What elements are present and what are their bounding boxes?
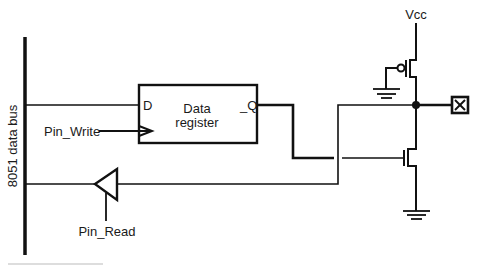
- data-register: D Data register _Q: [139, 85, 257, 143]
- pin-write-label: Pin_Write: [44, 124, 100, 139]
- wire-q-to-nmos-gate: [257, 105, 334, 158]
- nmos-transistor: [404, 105, 416, 211]
- circuit-diagram: 8051 data bus D Data register _Q Pin_Wri…: [0, 0, 477, 266]
- data-bus-label: 8051 data bus: [5, 104, 20, 187]
- d-input-label: D: [143, 98, 152, 113]
- output-pin-icon: [452, 97, 468, 113]
- read-buffer: Pin_Read: [25, 169, 136, 239]
- register-label-line2: register: [175, 115, 219, 130]
- pmos-gate-bubble-icon: [398, 65, 405, 72]
- wire-pin-readback: [117, 105, 416, 184]
- ground-icon-1: [373, 89, 400, 98]
- vcc-label: Vcc: [405, 7, 427, 22]
- ground-icon-2: [403, 211, 430, 219]
- data-bus: 8051 data bus: [5, 37, 25, 255]
- register-label-line1: Data: [183, 101, 211, 116]
- pmos-transistor: [386, 23, 416, 105]
- q-output-label: _Q: [239, 98, 257, 113]
- pin-read-label: Pin_Read: [78, 224, 135, 239]
